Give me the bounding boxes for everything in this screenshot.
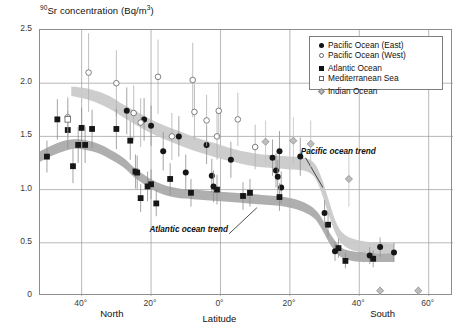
y-axis-tick-label: 0.5	[6, 236, 32, 246]
data-point-filled-square[interactable]	[188, 190, 194, 196]
data-point-filled-square[interactable]	[214, 187, 220, 193]
data-point-open-circle[interactable]	[190, 77, 196, 83]
x-axis-tick-label: 20°	[274, 298, 304, 308]
data-point-filled-circle[interactable]	[183, 170, 189, 176]
x-axis-tick-label: 60°	[413, 298, 443, 308]
legend-item-pacific-west[interactable]: Pacific Ocean (West)	[315, 50, 438, 60]
data-point-filled-circle[interactable]	[124, 108, 130, 114]
data-point-open-circle[interactable]	[216, 108, 222, 114]
legend-item-atlantic[interactable]: Atlantic Ocean	[315, 63, 438, 73]
data-point-filled-square[interactable]	[153, 201, 159, 207]
data-point-open-circle[interactable]	[169, 134, 175, 140]
y-axis-title-main: Sr concentration (Bq/m	[47, 5, 146, 16]
data-point-filled-square[interactable]	[138, 195, 144, 201]
x-axis-title: Latitude	[179, 313, 259, 324]
data-point-open-circle[interactable]	[86, 70, 92, 76]
legend-label: Indian Ocean	[328, 86, 377, 96]
data-point-filled-square[interactable]	[240, 193, 246, 199]
data-point-filled-square[interactable]	[82, 142, 88, 148]
trend-band-pacific	[71, 86, 394, 254]
series-pacific-ocean-east	[124, 87, 397, 264]
y-axis-tick-label: 0	[6, 289, 32, 299]
x-axis-tick-label: 40°	[66, 298, 96, 308]
data-point-filled-square[interactable]	[54, 116, 60, 122]
x-axis-caption-south: South	[358, 308, 408, 319]
data-point-gray-diamond[interactable]	[307, 140, 314, 147]
y-axis-title: 90Sr concentration (Bq/m3)	[40, 4, 154, 16]
data-point-filled-square[interactable]	[247, 190, 253, 196]
data-point-filled-square[interactable]	[89, 126, 95, 132]
legend-label: Atlantic Ocean	[328, 63, 382, 73]
data-point-filled-square[interactable]	[343, 258, 349, 264]
data-point-open-circle[interactable]	[204, 118, 210, 124]
open-circle-icon	[315, 50, 328, 60]
data-point-gray-diamond[interactable]	[415, 287, 422, 294]
data-point-filled-square[interactable]	[75, 142, 81, 148]
data-point-filled-circle[interactable]	[391, 249, 397, 255]
data-point-filled-circle[interactable]	[160, 148, 166, 154]
gray-diamond-icon	[315, 86, 328, 96]
filled-square-icon	[315, 63, 328, 73]
data-point-gray-diamond[interactable]	[290, 137, 297, 144]
legend-item-indian[interactable]: Indian Ocean	[315, 86, 438, 96]
data-point-filled-circle[interactable]	[377, 244, 383, 250]
data-point-filled-square[interactable]	[134, 170, 140, 176]
y-axis-tick-label: 2.5	[6, 23, 32, 33]
pacific-leader	[306, 158, 323, 188]
data-point-open-circle[interactable]	[131, 110, 137, 116]
chart-root: 90Sr concentration (Bq/m3) Pacific Ocean…	[0, 0, 468, 331]
legend-label: Mediterranean Sea	[328, 73, 399, 83]
data-point-filled-square[interactable]	[44, 154, 50, 160]
data-point-filled-square[interactable]	[70, 163, 76, 169]
x-axis-tick-label: 0°	[204, 298, 234, 308]
data-point-filled-square[interactable]	[113, 126, 119, 132]
chart-legend: Pacific Ocean (East) Pacific Ocean (West…	[309, 36, 443, 90]
legend-item-mediterranean[interactable]: Mediterranean Sea	[315, 73, 438, 83]
data-point-filled-circle[interactable]	[275, 174, 281, 180]
annotation-pacific: Pacific ocean trend	[301, 147, 376, 156]
data-point-open-circle[interactable]	[138, 120, 144, 126]
annotation-atlantic: Atlantic ocean trend	[149, 225, 228, 234]
atlantic-leader	[229, 208, 257, 234]
x-axis-tick-label: 20°	[135, 298, 165, 308]
legend-label: Pacific Ocean (West)	[328, 50, 406, 60]
legend-item-pacific-east[interactable]: Pacific Ocean (East)	[315, 40, 438, 50]
y-axis-tick-label: 2.0	[6, 76, 32, 86]
data-point-open-circle[interactable]	[252, 144, 258, 150]
data-point-gray-diamond[interactable]	[345, 175, 352, 182]
series-mediterranean-sea	[65, 97, 71, 142]
data-point-filled-square[interactable]	[167, 176, 173, 182]
data-point-filled-square[interactable]	[277, 194, 283, 200]
data-point-filled-circle[interactable]	[276, 148, 282, 154]
data-point-open-circle[interactable]	[235, 117, 241, 123]
open-square-icon	[315, 73, 328, 83]
y-axis-tick-label: 1.5	[6, 129, 32, 139]
data-point-filled-square[interactable]	[79, 125, 85, 131]
legend-label: Pacific Ocean (East)	[328, 40, 404, 50]
data-point-open-circle[interactable]	[114, 80, 120, 86]
data-point-filled-square[interactable]	[148, 181, 154, 187]
data-point-open-circle[interactable]	[192, 109, 198, 115]
data-point-filled-square[interactable]	[336, 245, 342, 251]
data-point-open-square[interactable]	[65, 117, 71, 123]
data-point-filled-circle[interactable]	[322, 210, 328, 216]
data-point-filled-circle[interactable]	[148, 123, 154, 129]
y-axis-tick-label: 1.0	[6, 183, 32, 193]
data-point-filled-square[interactable]	[370, 256, 376, 262]
data-point-gray-diamond[interactable]	[262, 138, 269, 145]
x-axis-tick-label: 40°	[343, 298, 373, 308]
data-point-filled-square[interactable]	[325, 222, 331, 228]
data-point-filled-circle[interactable]	[176, 133, 182, 139]
y-axis-title-paren: )	[151, 5, 154, 16]
filled-circle-icon	[315, 40, 328, 50]
data-point-filled-circle[interactable]	[270, 155, 276, 161]
x-axis-caption-north: North	[87, 308, 137, 319]
data-point-filled-circle[interactable]	[228, 157, 234, 163]
data-point-open-circle[interactable]	[155, 74, 161, 80]
data-point-gray-diamond[interactable]	[377, 287, 384, 294]
data-point-filled-square[interactable]	[127, 138, 133, 144]
